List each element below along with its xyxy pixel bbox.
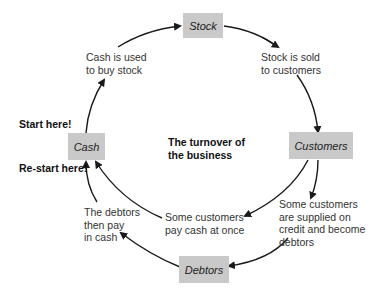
label-restart-here: Re-start here!	[19, 162, 87, 175]
title-line: the business	[168, 149, 245, 162]
label-debtors-pay: The debtors then pay in cash	[84, 206, 140, 244]
node-customers: Customers	[289, 132, 353, 159]
label-line: Stock is sold	[261, 51, 321, 64]
node-customers-label: Customers	[294, 140, 347, 152]
label-stock-to-customers: Stock is sold to customers	[261, 51, 321, 76]
node-debtors: Debtors	[179, 256, 229, 283]
label-line: then pay	[84, 219, 140, 232]
arrow-cash-to-stock-upper	[118, 26, 180, 47]
label-line: to buy stock	[86, 64, 147, 77]
diagram-title: The turnover of the business	[168, 136, 245, 161]
node-cash: Cash	[68, 133, 105, 160]
business-turnover-diagram: Stock Cash Customers Debtors Cash is use…	[0, 0, 373, 293]
label-start-here: Start here!	[19, 118, 72, 131]
label-cash-to-stock: Cash is used to buy stock	[86, 51, 147, 76]
label-line: credit and become	[279, 223, 365, 236]
arrow-cash-to-stock-lower	[86, 80, 104, 133]
arrow-sold-to-customers	[297, 75, 318, 132]
label-line: are supplied on	[279, 211, 365, 224]
label-line: in cash	[84, 231, 140, 244]
label-line: Some customers	[165, 211, 244, 224]
title-line: The turnover of	[168, 136, 245, 149]
label-line: Cash is used	[86, 51, 147, 64]
node-cash-label: Cash	[74, 141, 100, 153]
arrow-stock-to-sold	[224, 26, 278, 47]
label-line: The debtors	[84, 206, 140, 219]
arrow-stock-to-sold-head	[262, 37, 278, 47]
label-customers-credit: Some customers are supplied on credit an…	[279, 198, 365, 248]
label-line: to customers	[261, 64, 321, 77]
arrow-customers-to-credit	[311, 160, 318, 198]
node-stock: Stock	[183, 13, 223, 38]
label-line: debtors	[279, 236, 365, 249]
node-debtors-label: Debtors	[185, 264, 224, 276]
node-stock-label: Stock	[189, 20, 217, 32]
label-customers-pay-cash: Some customers pay cash at once	[165, 211, 244, 236]
label-line: pay cash at once	[165, 224, 244, 237]
label-line: Some customers	[279, 198, 365, 211]
arrow-debtorspay-to-cash	[86, 162, 97, 202]
